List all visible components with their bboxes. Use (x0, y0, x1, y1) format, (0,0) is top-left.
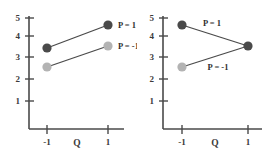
series-label-pneg1: P = -1 (208, 62, 229, 72)
y-tick-label-3: 3 (16, 52, 21, 62)
x-tick-label-neg1: -1 (178, 137, 186, 147)
data-point-pneg1-pos1 (103, 41, 112, 50)
series-label-p1: P = 1 (203, 18, 221, 28)
data-point-p1-neg1 (42, 43, 51, 52)
series-line-p1 (47, 25, 108, 48)
x-axis-label: Q (73, 138, 80, 148)
series-label-pneg1: P = -1 (118, 41, 137, 51)
x-axis-label: Q (211, 138, 218, 148)
interaction-plot-figure: 5 4 3 2 1 -1 1 Q P = 1 P = -1 (0, 0, 273, 158)
y-tick-label-4: 4 (16, 31, 21, 41)
chart-panel-interaction: 5 4 3 2 1 -1 1 Q P = 1 P = -1 (136, 0, 273, 158)
chart-panel-no-interaction: 5 4 3 2 1 -1 1 Q P = 1 P = -1 (0, 0, 137, 158)
y-tick-label-1: 1 (150, 96, 155, 106)
y-tick-label-2: 2 (16, 74, 21, 84)
y-tick-label-5: 5 (16, 13, 21, 23)
y-tick-label-5: 5 (150, 13, 155, 23)
data-point-pneg1-neg1 (42, 62, 51, 71)
x-tick-label-pos1: 1 (246, 137, 251, 147)
data-point-converged-pos1 (243, 41, 252, 50)
y-tick-label-2: 2 (150, 74, 155, 84)
series-label-p1: P = 1 (118, 20, 136, 30)
y-tick-label-4: 4 (150, 31, 155, 41)
y-tick-label-1: 1 (16, 96, 21, 106)
x-tick-label-neg1: -1 (43, 137, 51, 147)
data-point-p1-pos1 (103, 20, 112, 29)
data-point-pneg1-neg1 (177, 62, 186, 71)
series-line-pneg1 (47, 46, 108, 67)
series-line-p1 (182, 25, 248, 46)
y-tick-label-3: 3 (150, 52, 155, 62)
x-tick-label-pos1: 1 (106, 137, 111, 147)
data-point-p1-neg1 (177, 20, 186, 29)
